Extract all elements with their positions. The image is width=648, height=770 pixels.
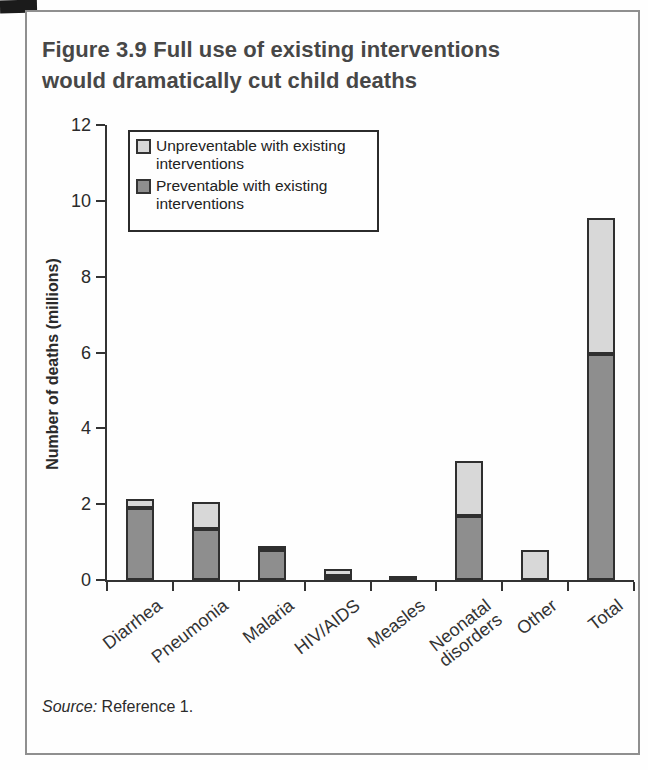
- bar-segment-unpreventable: [192, 502, 220, 529]
- x-category-label: Malaria: [239, 596, 297, 647]
- bar-segment-unpreventable: [587, 218, 615, 355]
- y-axis-tick-label: 0: [55, 571, 91, 589]
- legend: Unpreventable with existing intervention…: [128, 130, 379, 232]
- y-axis-tick-label: 2: [55, 495, 91, 513]
- x-axis-tick: [304, 582, 306, 591]
- bar-segment-preventable: [258, 550, 286, 580]
- bar-segment-preventable: [587, 354, 615, 580]
- figure-title: Figure 3.9 Full use of existing interven…: [42, 34, 500, 96]
- figure-frame: Figure 3.9 Full use of existing interven…: [25, 10, 640, 755]
- x-axis-tick: [106, 582, 108, 591]
- legend-swatch-unpreventable: [136, 139, 151, 154]
- source-text: Reference 1.: [102, 698, 194, 715]
- x-axis-tick: [567, 582, 569, 591]
- x-category-label: Measles: [365, 596, 429, 651]
- y-axis-tick-label: 10: [55, 192, 91, 210]
- y-axis-tick: [96, 200, 105, 202]
- y-axis-tick: [96, 276, 105, 278]
- bar-segment-preventable: [455, 516, 483, 580]
- x-axis-tick: [370, 582, 372, 591]
- bar-segment-unpreventable: [521, 550, 549, 580]
- bar-segment-unpreventable: [324, 569, 352, 577]
- x-axis-tick: [501, 582, 503, 591]
- scanned-page: Figure 3.9 Full use of existing interven…: [0, 0, 648, 770]
- x-axis-tick: [172, 582, 174, 591]
- y-axis-tick-label: 4: [55, 419, 91, 437]
- bar-segment-unpreventable: [258, 546, 286, 550]
- x-category-label: Total: [585, 596, 626, 634]
- legend-label-preventable: Preventable with existing interventions: [156, 177, 327, 212]
- bar-segment-preventable: [389, 576, 417, 580]
- bar-segment-preventable: [324, 576, 352, 580]
- x-axis-tick: [633, 582, 635, 591]
- legend-item-unpreventable: Unpreventable with existing intervention…: [136, 137, 373, 172]
- y-axis-tick: [96, 503, 105, 505]
- x-category-label: HIV/AIDS: [291, 596, 363, 658]
- y-axis-tick: [96, 124, 105, 126]
- bar-segment-unpreventable: [455, 461, 483, 516]
- y-axis-tick: [96, 352, 105, 354]
- figure-title-line1: Figure 3.9 Full use of existing interven…: [42, 34, 500, 65]
- legend-swatch-preventable: [136, 179, 151, 194]
- figure-title-line2: would dramatically cut child deaths: [42, 65, 500, 96]
- source-note: Source: Reference 1.: [42, 698, 193, 716]
- x-axis-tick: [435, 582, 437, 591]
- bar-segment-unpreventable: [126, 499, 154, 508]
- x-axis-tick: [238, 582, 240, 591]
- y-axis-tick-label: 8: [55, 268, 91, 286]
- y-axis-tick: [96, 579, 105, 581]
- x-category-label: Neonatal disorders: [425, 596, 506, 670]
- y-axis-tick-label: 6: [55, 344, 91, 362]
- legend-item-preventable: Preventable with existing interventions: [136, 177, 373, 212]
- bar-segment-preventable: [192, 529, 220, 580]
- source-label: Source:: [42, 698, 97, 715]
- x-category-label: Other: [514, 596, 561, 638]
- y-axis-tick: [96, 427, 105, 429]
- y-axis-label: Number of deaths (millions): [44, 258, 62, 470]
- y-axis-tick-label: 12: [55, 116, 91, 134]
- bar-segment-preventable: [126, 508, 154, 580]
- legend-label-unpreventable: Unpreventable with existing intervention…: [156, 137, 346, 172]
